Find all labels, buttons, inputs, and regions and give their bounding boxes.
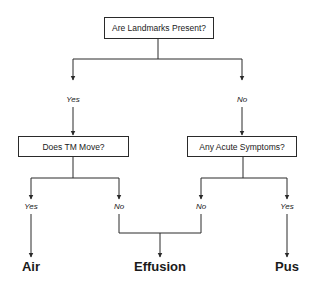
outcome-effusion: Effusion (134, 260, 186, 274)
decision-node-acute-symptoms: Any Acute Symptoms? (187, 136, 297, 157)
decision-node-landmarks: Are Landmarks Present? (104, 17, 214, 39)
edge-label-root-no: No (236, 95, 248, 105)
edge-label-left-yes: Yes (23, 202, 38, 212)
node-text: Does TM Move? (42, 142, 104, 152)
decision-tree-diagram: Are Landmarks Present? Does TM Move? Any… (0, 0, 314, 288)
edge-label-right-yes: Yes (279, 202, 294, 212)
edge-label-left-no: No (113, 202, 125, 212)
node-text: Any Acute Symptoms? (199, 142, 285, 152)
outcome-pus: Pus (275, 260, 299, 274)
outcome-air: Air (22, 260, 40, 274)
edge-label-root-yes: Yes (65, 95, 80, 105)
decision-node-tm-move: Does TM Move? (18, 136, 129, 157)
node-text: Are Landmarks Present? (112, 23, 206, 33)
edge-label-right-no: No (195, 202, 207, 212)
